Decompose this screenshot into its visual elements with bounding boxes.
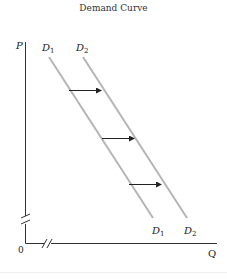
d1-top-label: D 1 [41,42,54,55]
svg-text:D: D [75,42,84,53]
origin-label: 0 [18,245,24,255]
svg-text:1: 1 [50,47,54,55]
demand-curve-d2 [83,57,187,218]
x-axis [26,239,218,248]
svg-text:D: D [41,42,50,53]
d2-top-label: D 2 [75,42,88,55]
d2-bottom-label: D 2 [183,225,196,238]
svg-text:D: D [183,225,192,236]
y-axis [21,42,30,244]
chart-plot: P 0 Q D 1 D 2 D 1 D 2 [0,0,227,279]
svg-text:1: 1 [160,230,164,238]
svg-text:2: 2 [84,47,88,55]
demand-curve-chart: Demand Curve P 0 Q [0,0,227,279]
d1-bottom-label: D 1 [151,225,164,238]
y-axis-label: P [15,40,23,51]
svg-text:2: 2 [192,230,196,238]
svg-text:D: D [151,225,160,236]
demand-curve-d1 [49,57,153,218]
divider [0,272,227,273]
x-axis-label: Q [208,248,216,259]
